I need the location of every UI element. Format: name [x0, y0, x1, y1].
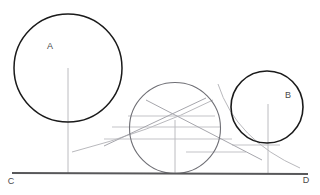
- baseline-cd: [12, 173, 308, 174]
- label-a: A: [47, 41, 53, 51]
- circle-b: [231, 71, 303, 143]
- construction-arc-left: [72, 100, 213, 152]
- label-b: B: [285, 90, 291, 100]
- geometry-figure: A B C D: [0, 0, 320, 195]
- construction-arc-group: [72, 84, 300, 168]
- label-d: D: [303, 175, 310, 185]
- diagram-canvas: A B C D: [0, 0, 320, 195]
- label-c: C: [8, 176, 15, 186]
